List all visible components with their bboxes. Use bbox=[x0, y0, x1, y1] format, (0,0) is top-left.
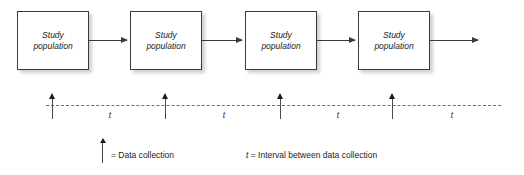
interval-label-2: t bbox=[223, 110, 225, 120]
study-population-box-1: Study population bbox=[17, 11, 89, 70]
study-population-box-2: Study population bbox=[130, 11, 202, 70]
interval-label-4: t bbox=[451, 110, 453, 120]
legend-data-collection-text: = Data collection bbox=[111, 150, 174, 160]
flow-arrow-2 bbox=[202, 40, 242, 41]
study-population-label: Study population bbox=[374, 30, 413, 51]
flow-arrow-3 bbox=[317, 40, 355, 41]
flow-arrow-4 bbox=[430, 40, 478, 41]
data-collection-tick-1 bbox=[52, 97, 53, 119]
data-collection-tick-2 bbox=[165, 97, 166, 119]
data-collection-tick-4 bbox=[392, 97, 393, 119]
study-timeline-diagram: Study population Study population Study … bbox=[0, 0, 524, 175]
study-population-box-3: Study population bbox=[245, 11, 317, 70]
study-population-label: Study population bbox=[261, 30, 300, 51]
study-population-label: Study population bbox=[146, 30, 185, 51]
interval-label-1: t bbox=[109, 110, 111, 120]
study-population-label: Study population bbox=[33, 30, 72, 51]
flow-arrow-1 bbox=[89, 40, 127, 41]
timeline-axis bbox=[46, 105, 501, 106]
legend-interval-text: = Interval between data collection bbox=[248, 150, 377, 160]
up-arrow-icon bbox=[102, 142, 103, 163]
study-population-box-4: Study population bbox=[358, 11, 430, 70]
legend-interval: t = Interval between data collection bbox=[246, 150, 377, 160]
data-collection-tick-3 bbox=[280, 97, 281, 119]
interval-label-3: t bbox=[337, 110, 339, 120]
